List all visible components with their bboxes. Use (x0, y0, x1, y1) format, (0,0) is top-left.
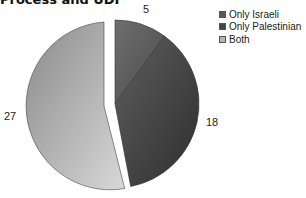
data-label-only-israeli: 5 (143, 3, 149, 15)
legend-label: Only Israeli (229, 9, 279, 20)
data-label-only-palestinian: 18 (206, 116, 218, 128)
legend-label: Both (229, 34, 250, 45)
legend-swatch-icon (219, 36, 226, 43)
legend-swatch-icon (219, 23, 226, 30)
chart-legend: Only Israeli Only Palestinian Both (219, 8, 301, 46)
legend-label: Only Palestinian (229, 21, 301, 32)
legend-item-only-israeli[interactable]: Only Israeli (219, 8, 301, 21)
legend-swatch-icon (219, 11, 226, 18)
legend-item-only-palestinian[interactable]: Only Palestinian (219, 21, 301, 34)
slice-both (26, 22, 125, 190)
data-label-both: 27 (4, 110, 16, 122)
legend-item-both[interactable]: Both (219, 33, 301, 46)
